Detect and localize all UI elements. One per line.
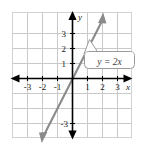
y-tick-label-1: 1 (62, 59, 67, 69)
x-tick-label-2: 2 (100, 82, 105, 92)
x-tick-label-neg1: -1 (54, 82, 62, 92)
y-axis-label: y (77, 12, 82, 22)
x-axis-label: x (125, 82, 130, 92)
callout-equation-label: y = 2x (96, 57, 122, 67)
y-tick-label-2: 2 (62, 44, 67, 54)
x-tick-label-1: 1 (85, 82, 90, 92)
coordinate-plane-svg: -3 -2 -1 1 2 3 3 2 1 -3 x y y = 2x (0, 0, 143, 149)
x-tick-label-neg2: -2 (39, 82, 47, 92)
y-tick-label-neg3: -3 (61, 119, 69, 129)
x-tick-label-neg3: -3 (24, 82, 32, 92)
graph-figure: -3 -2 -1 1 2 3 3 2 1 -3 x y y = 2x (0, 0, 143, 149)
y-tick-label-3: 3 (62, 29, 67, 39)
x-tick-label-3: 3 (115, 82, 120, 92)
